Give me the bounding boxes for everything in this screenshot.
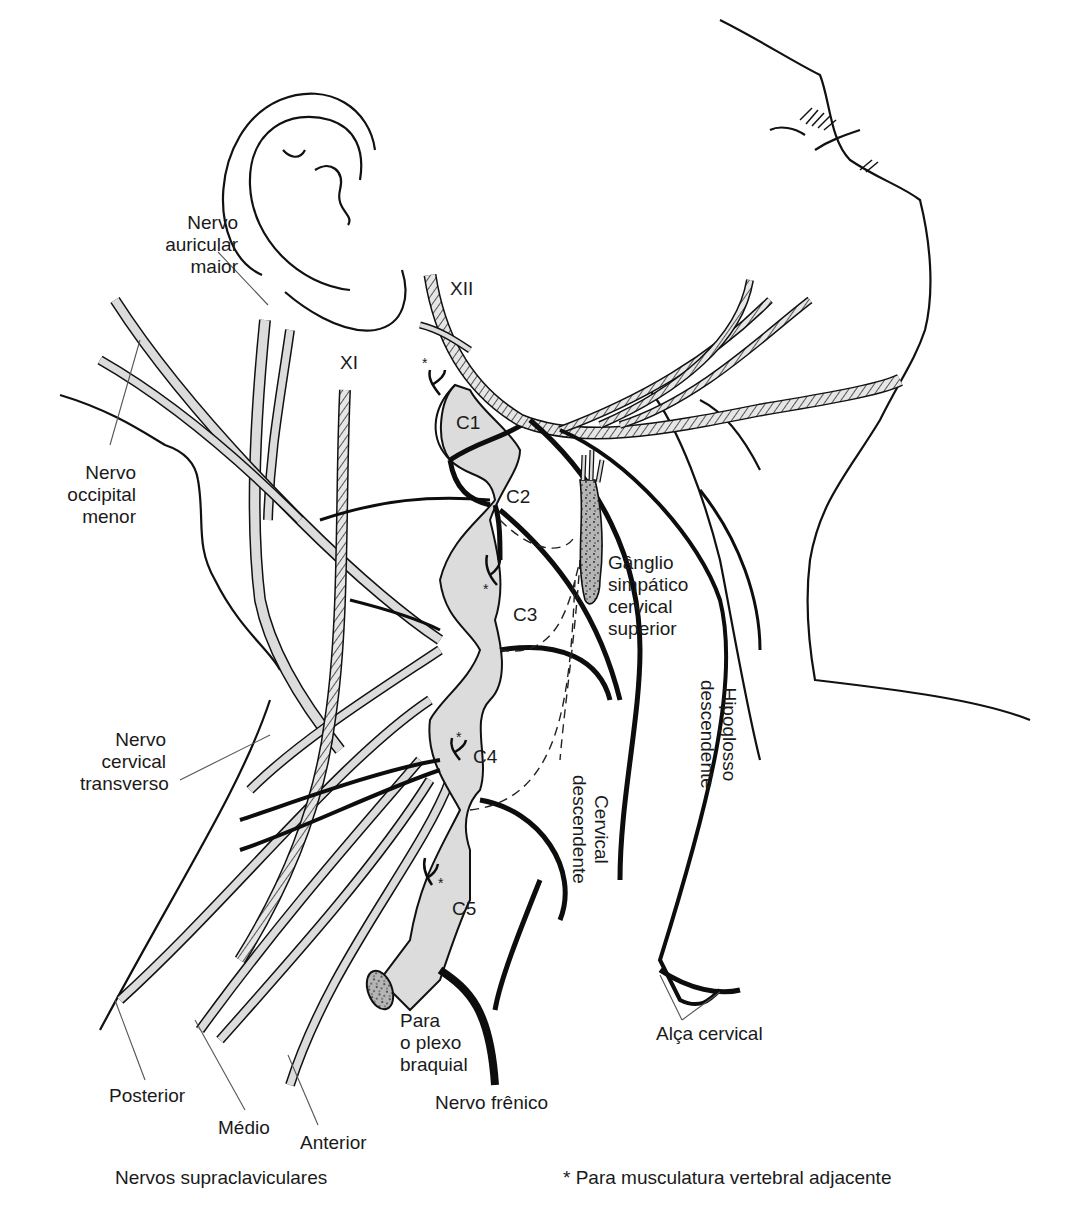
label-occipital-menor: Nervo occipital menor — [50, 462, 136, 528]
label-line: descendente — [696, 680, 718, 789]
label-line: Nervo — [80, 729, 166, 751]
label-nervos-supraclaviculares: Nervos supraclaviculares — [115, 1167, 327, 1189]
label-line: occipital — [50, 484, 136, 506]
label-c4: C4 — [473, 746, 497, 768]
asterisk-c4: * — [456, 726, 461, 748]
label-line: cervical — [80, 751, 166, 773]
label-plexo-braquial: Para o plexo braquial — [400, 1010, 468, 1076]
label-c5: C5 — [452, 898, 476, 920]
label-line: Gânglio — [608, 552, 688, 574]
label-c1: C1 — [456, 412, 480, 434]
label-medio: Médio — [218, 1117, 270, 1139]
label-auricular-maior: Nervo auricular maior — [148, 212, 238, 278]
label-line: o plexo — [400, 1032, 468, 1054]
label-line: Nervo — [50, 462, 136, 484]
label-line: superior — [608, 618, 688, 640]
label-line: cervical — [608, 596, 688, 618]
label-ganglio-simpatico: Gânglio simpático cervical superior — [608, 552, 688, 640]
label-line: simpático — [608, 574, 688, 596]
label-hipoglosso-descendente: Hipoglosso descendente — [696, 680, 740, 789]
asterisk-c5: * — [438, 872, 443, 894]
label-line: maior — [148, 256, 238, 278]
asterisk-c3: * — [483, 578, 488, 600]
label-cervical-transverso: Nervo cervical transverso — [80, 729, 166, 795]
label-anterior: Anterior — [300, 1132, 367, 1154]
label-line: Para — [400, 1010, 468, 1032]
hypoglossal-nerve — [420, 275, 900, 433]
cervical-plexus-diagram: Nervo auricular maior Nervo occipital me… — [0, 0, 1070, 1210]
label-line: transverso — [80, 773, 166, 795]
asterisk-c1: * — [422, 352, 427, 374]
label-line: descendente — [568, 775, 590, 884]
label-xi: XI — [340, 352, 358, 374]
label-line: braquial — [400, 1054, 468, 1076]
label-line: menor — [50, 506, 136, 528]
plexus-trunk — [362, 385, 530, 1013]
label-line: auricular — [148, 234, 238, 256]
label-footnote: * Para musculatura vertebral adjacente — [563, 1167, 891, 1189]
ganglion-shape — [580, 450, 602, 604]
label-c3: C3 — [513, 604, 537, 626]
label-posterior: Posterior — [109, 1085, 185, 1107]
label-alca-cervical: Alça cervical — [656, 1023, 763, 1045]
label-line: Nervo — [148, 212, 238, 234]
head-outline — [60, 20, 1030, 1030]
label-line: Cervical — [590, 775, 612, 884]
label-line: Hipoglosso — [718, 680, 740, 789]
label-c2: C2 — [506, 486, 530, 508]
label-xii: XII — [450, 278, 473, 300]
label-nervo-frenico: Nervo frênico — [435, 1092, 548, 1114]
label-cervical-descendente: Cervical descendente — [568, 775, 612, 884]
eye-hatching — [800, 108, 878, 172]
